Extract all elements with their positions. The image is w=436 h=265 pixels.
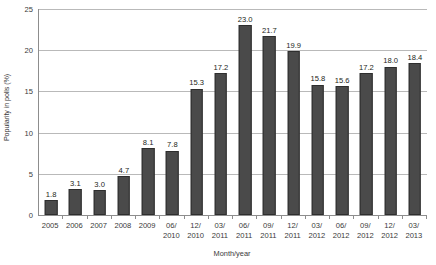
x-tick-label: 03/2011 — [212, 221, 228, 240]
bar — [142, 148, 155, 215]
x-tick-mark — [184, 215, 185, 219]
y-axis-title-text: Popularity in polls (%) — [3, 74, 12, 141]
bar-value-label: 18.4 — [407, 53, 422, 62]
x-tick-label-line1: 12/ — [384, 221, 395, 230]
x-tick-label: 2005 — [42, 221, 59, 231]
x-tick-mark — [135, 215, 136, 219]
x-tick-label-line1: 06/ — [336, 221, 347, 230]
bar-group: 7.8 — [160, 9, 184, 215]
x-tick-label: 06/2011 — [236, 221, 252, 240]
x-axis-title: Month/year — [38, 249, 426, 258]
bar — [166, 151, 179, 215]
bar-value-label: 15.8 — [310, 74, 325, 83]
x-tick-mark — [281, 215, 282, 219]
x-tick-label-line1: 2005 — [42, 221, 59, 230]
x-tick-mark — [426, 215, 427, 219]
bar — [45, 200, 58, 215]
bar-value-label: 21.7 — [262, 26, 277, 35]
x-tick-mark — [329, 215, 330, 219]
bar — [409, 63, 422, 215]
bar — [190, 89, 203, 215]
x-tick-mark — [208, 215, 209, 219]
x-tick-label-line1: 2006 — [66, 221, 83, 230]
x-tick-label-line1: 2007 — [90, 221, 107, 230]
bar-value-label: 17.2 — [359, 63, 374, 72]
bar-value-label: 17.2 — [213, 63, 228, 72]
x-tick-label-line2: 2011 — [212, 231, 228, 241]
x-tick-mark — [111, 215, 112, 219]
bar-value-label: 3.0 — [94, 180, 105, 189]
x-tick-label: 09/2012 — [357, 221, 374, 240]
x-tick-label: 03/2012 — [308, 221, 325, 240]
bar — [69, 189, 82, 215]
x-tick-label-line1: 2009 — [139, 221, 156, 230]
x-tick-label: 2009 — [139, 221, 156, 231]
x-tick-label-line1: 2008 — [114, 221, 131, 230]
bar-group: 15.6 — [330, 9, 354, 215]
bar-group: 1.8 — [39, 9, 63, 215]
x-tick-label-line2: 2012 — [381, 231, 398, 241]
x-tick-mark — [87, 215, 88, 219]
x-tick-label-line1: 03/ — [409, 221, 420, 230]
x-tick-label: 09/2011 — [260, 221, 276, 240]
bar — [263, 36, 276, 215]
bar-value-label: 7.8 — [167, 140, 178, 149]
x-tick-mark — [402, 215, 403, 219]
y-tick-label: 25 — [25, 5, 33, 14]
x-tick-label: 12/2012 — [381, 221, 398, 240]
x-tick-label-line1: 06/ — [166, 221, 177, 230]
x-tick-label-line1: 03/ — [312, 221, 323, 230]
y-tick-label: 10 — [25, 128, 33, 137]
bar — [287, 51, 300, 215]
x-tick-label-line1: 06/ — [239, 221, 250, 230]
bar-value-label: 23.0 — [238, 15, 253, 24]
bar — [384, 67, 397, 215]
bar-value-label: 15.6 — [335, 76, 350, 85]
bar-value-label: 4.7 — [119, 166, 130, 175]
x-tick-label-line1: 09/ — [360, 221, 371, 230]
x-tick-label: 2006 — [66, 221, 83, 231]
x-tick-label-line1: 09/ — [263, 221, 274, 230]
plot-area: 1.83.13.04.78.17.815.317.223.021.719.915… — [38, 9, 427, 216]
x-tick-label-line2: 2013 — [405, 231, 422, 241]
bar-value-label: 19.9 — [286, 41, 301, 50]
x-tick-label: 06/2012 — [333, 221, 350, 240]
x-tick-mark — [305, 215, 306, 219]
bars-layer: 1.83.13.04.78.17.815.317.223.021.719.915… — [39, 9, 427, 215]
x-tick-label: 2008 — [114, 221, 131, 231]
bar — [239, 25, 252, 215]
bar-group: 3.1 — [63, 9, 87, 215]
x-tick-label-line1: 12/ — [287, 221, 298, 230]
bar-group: 21.7 — [257, 9, 281, 215]
bar-value-label: 3.1 — [70, 179, 81, 188]
x-tick-label-line2: 2012 — [308, 231, 325, 241]
bar — [360, 73, 373, 215]
x-tick-mark — [62, 215, 63, 219]
bar-group: 18.4 — [403, 9, 427, 215]
x-tick-label-line2: 2011 — [260, 231, 276, 241]
x-tick-label: 12/2011 — [284, 221, 300, 240]
x-tick-label: 2007 — [90, 221, 107, 231]
bar-group: 19.9 — [282, 9, 306, 215]
bar-value-label: 1.8 — [46, 190, 57, 199]
bar-group: 3.0 — [88, 9, 112, 215]
x-tick-mark — [256, 215, 257, 219]
x-tick-mark — [159, 215, 160, 219]
x-axis-tick-labels: 2005200620072008200906/201012/201003/201… — [38, 221, 426, 247]
bar-group: 17.2 — [209, 9, 233, 215]
bar-value-label: 8.1 — [143, 138, 154, 147]
bar-group: 8.1 — [136, 9, 160, 215]
x-tick-label-line2: 2011 — [284, 231, 300, 241]
x-tick-label-line1: 03/ — [215, 221, 226, 230]
bar-group: 15.3 — [185, 9, 209, 215]
x-tick-mark — [353, 215, 354, 219]
x-tick-label: 06/2010 — [163, 221, 180, 240]
x-tick-label-line2: 2012 — [333, 231, 350, 241]
bar-group: 23.0 — [233, 9, 257, 215]
x-tick-mark — [232, 215, 233, 219]
bar — [215, 73, 228, 215]
x-tick-label-line2: 2012 — [357, 231, 374, 241]
y-tick-label: 5 — [29, 169, 33, 178]
x-tick-label: 12/2010 — [187, 221, 204, 240]
bar — [118, 176, 131, 215]
